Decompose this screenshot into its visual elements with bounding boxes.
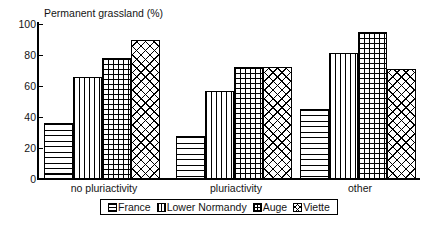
bar-group-no-pluriactivity [44,24,164,179]
legend-swatch-diagonal-cross-icon [293,203,302,212]
bar-lower-normandy-other [329,53,358,179]
chart-legend: France Lower Normandy Auge Viette [100,199,338,215]
plot-area [38,24,420,179]
bar-auge-other [358,32,387,179]
category-label-no-pluriactivity: no pluriactivity [44,182,164,194]
bar-group-other [300,24,420,179]
legend-swatch-horizontal-lines-icon [108,203,117,212]
y-tick-label-80: 80 [2,50,36,61]
legend-item-viette[interactable]: Viette [293,201,330,213]
y-tick-label-0: 0 [2,174,36,185]
bar-viette-other [387,69,416,179]
bar-group-pluriactivity [176,24,296,179]
y-tick-label-40: 40 [2,112,36,123]
legend-label-viette: Viette [303,201,330,213]
bar-lower-normandy-no-pluriactivity [73,77,102,179]
y-tick-label-100: 100 [2,19,36,30]
bar-viette-pluriactivity [263,67,292,179]
bar-auge-no-pluriactivity [102,58,131,179]
bar-auge-pluriactivity [234,67,263,179]
bar-chart: Permanent grassland (%) 100 80 60 40 20 … [0,0,426,226]
y-tick-label-60: 60 [2,81,36,92]
bar-france-no-pluriactivity [44,123,73,179]
legend-label-auge: Auge [263,201,288,213]
bar-viette-no-pluriactivity [131,40,160,180]
category-label-pluriactivity: pluriactivity [176,182,296,194]
legend-item-auge[interactable]: Auge [253,201,288,213]
legend-label-france: France [118,201,151,213]
bar-france-other [300,109,329,179]
category-label-other: other [300,182,420,194]
y-axis-tick-labels: 100 80 60 40 20 0 [0,0,36,226]
legend-label-lower-normandy: Lower Normandy [167,201,247,213]
legend-swatch-vertical-lines-icon [157,203,166,212]
bar-france-pluriactivity [176,136,205,179]
legend-item-france[interactable]: France [108,201,151,213]
bar-lower-normandy-pluriactivity [205,91,234,179]
legend-swatch-square-grid-icon [253,203,262,212]
chart-title: Permanent grassland (%) [44,7,163,19]
y-tick-label-20: 20 [2,143,36,154]
legend-item-lower-normandy[interactable]: Lower Normandy [157,201,247,213]
